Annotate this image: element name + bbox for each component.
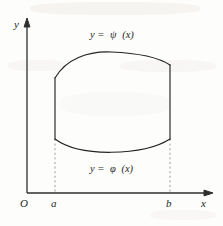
lower-curve-label-lhs: y = xyxy=(89,163,104,174)
upper-curve-label-arg: (x) xyxy=(122,29,134,41)
upper-boundary-curve xyxy=(55,52,170,78)
region-diagram: y x O a b y = ψ (x) y = φ (x) xyxy=(0,0,223,226)
x-axis-arrow-icon xyxy=(204,190,213,196)
y-axis-arrow-icon xyxy=(24,18,30,27)
origin-label: O xyxy=(20,197,28,209)
upper-curve-label-lhs: y = xyxy=(89,29,104,40)
lower-curve-label-arg: (x) xyxy=(121,163,133,175)
tick-label-a: a xyxy=(51,197,57,209)
lower-curve-label-fn: φ xyxy=(110,163,116,174)
lower-curve-label: y = φ (x) xyxy=(89,163,134,175)
y-axis-label: y xyxy=(13,18,19,30)
upper-curve-label-fn: ψ xyxy=(110,29,117,40)
x-axis-label: x xyxy=(200,197,206,209)
upper-curve-label: y = ψ (x) xyxy=(89,29,134,41)
tick-label-b: b xyxy=(166,197,172,209)
figure-canvas: y x O a b y = ψ (x) y = φ (x) xyxy=(0,0,223,226)
lower-boundary-curve xyxy=(55,139,170,152)
